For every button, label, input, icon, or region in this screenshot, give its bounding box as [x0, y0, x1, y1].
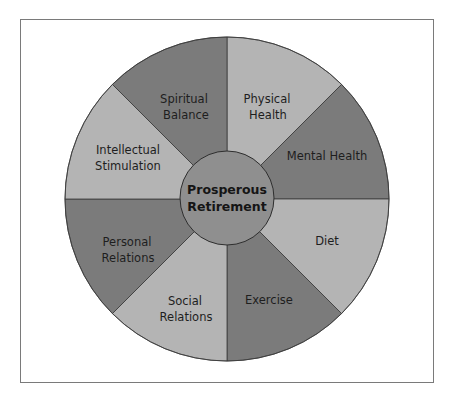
center-hub	[180, 151, 274, 245]
wheel-diagram: Prosperous Retirement Physical Health Me…	[0, 0, 452, 404]
label-social-relations-1: Social	[168, 294, 202, 308]
label-exercise: Exercise	[245, 293, 293, 307]
label-personal-relations-2: Relations	[102, 251, 155, 265]
label-physical-health-2: Health	[249, 108, 287, 122]
center-label-line1: Prosperous	[187, 182, 267, 197]
label-intellectual-stimulation-1: Intellectual	[96, 143, 160, 157]
label-diet: Diet	[315, 234, 339, 248]
center-label-line2: Retirement	[187, 199, 266, 214]
label-social-relations-2: Relations	[160, 310, 213, 324]
label-mental-health: Mental Health	[287, 149, 367, 163]
label-personal-relations-1: Personal	[103, 235, 152, 249]
label-spiritual-balance-1: Spiritual	[160, 92, 208, 106]
label-physical-health-1: Physical	[244, 92, 291, 106]
label-intellectual-stimulation-2: Stimulation	[95, 159, 161, 173]
label-spiritual-balance-2: Balance	[163, 108, 209, 122]
